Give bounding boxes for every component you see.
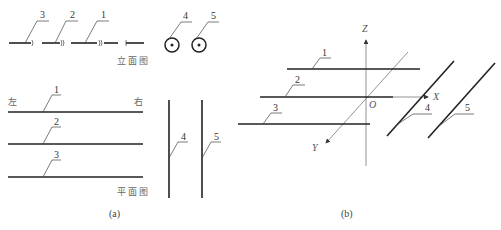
plan-title: 平面图 <box>117 187 150 197</box>
diagram-canvas: 3 2 1 4 <box>0 0 501 230</box>
axo-label-3: 3 <box>273 102 278 113</box>
caption-a: (a) <box>109 208 120 220</box>
axo-label-4: 4 <box>425 102 430 113</box>
z-axis-label: Z <box>362 23 368 34</box>
elevation-label-2: 2 <box>70 9 75 20</box>
plan-pipe-5: 5 <box>202 100 221 198</box>
left-label: 左 <box>8 96 19 107</box>
elevation-label-1: 1 <box>101 9 106 20</box>
axo-pipe-1: 1 <box>287 47 420 69</box>
plan-pipe-3: 3 <box>8 149 143 177</box>
elevation-pipe-2: 2 <box>42 9 78 46</box>
plan-view: 左 右 1 2 3 4 5 <box>8 84 221 198</box>
axo-label-5: 5 <box>465 102 470 113</box>
plan-label-4: 4 <box>181 131 186 142</box>
plan-pipe-1: 1 <box>8 84 143 112</box>
x-axis-label: X <box>432 91 440 102</box>
elevation-pipe-1: 1 <box>71 9 144 46</box>
elevation-title: 立面图 <box>117 55 150 66</box>
elevation-label-4: 4 <box>183 10 188 21</box>
x-axis: X <box>393 91 440 102</box>
elevation-pipe-5: 5 <box>192 10 219 52</box>
elevation-label-5: 5 <box>211 10 216 21</box>
plan-pipe-4: 4 <box>169 100 188 198</box>
elevation-pipe-3: 3 <box>9 9 49 46</box>
y-axis: Y <box>312 52 408 153</box>
axo-label-1: 1 <box>322 47 327 58</box>
plan-label-5: 5 <box>214 131 219 142</box>
caption-b: (b) <box>341 208 353 220</box>
elevation-view: 3 2 1 4 <box>9 9 219 66</box>
origin-label: O <box>369 99 376 110</box>
z-axis: Z <box>362 23 368 166</box>
plan-label-2: 2 <box>54 116 59 127</box>
axo-label-2: 2 <box>295 74 300 85</box>
axo-pipe-2: 2 <box>260 74 393 97</box>
y-axis-label: Y <box>312 142 319 153</box>
axo-pipe-3: 3 <box>238 102 370 124</box>
plan-label-1: 1 <box>54 84 59 95</box>
axonometric-view: Z Y O 1 2 X <box>238 23 495 166</box>
elevation-label-3: 3 <box>40 9 45 20</box>
axo-pipe-4: 4 <box>387 61 454 136</box>
right-label: 右 <box>134 96 145 107</box>
plan-label-3: 3 <box>54 149 59 160</box>
elevation-pipe-4: 4 <box>165 10 192 52</box>
plan-pipe-2: 2 <box>8 116 143 144</box>
